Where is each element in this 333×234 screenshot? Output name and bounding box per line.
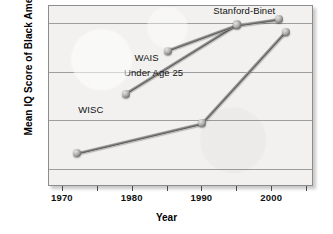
x-tick-mark (167, 186, 168, 191)
x-tick-label-1990: 1990 (181, 192, 221, 203)
series-line-segment (77, 122, 203, 155)
data-point-marker (282, 28, 290, 36)
x-axis-label: Year (0, 212, 333, 223)
annotation-wais: WAIS (134, 52, 158, 63)
x-tick-label-1980: 1980 (112, 192, 152, 203)
data-point-marker (198, 119, 206, 127)
x-tick-mark (271, 186, 272, 191)
x-tick-mark (306, 186, 307, 191)
x-tick-mark (62, 186, 63, 191)
series-line-segment (201, 30, 287, 124)
gridline-88 (49, 23, 312, 24)
gridline-82 (49, 169, 312, 170)
x-tick-mark (132, 186, 133, 191)
data-point-marker (73, 149, 81, 157)
series-line-segment (167, 24, 238, 52)
data-point-marker (122, 90, 130, 98)
plot-area: Stanford-Binet WAIS Under Age 25 WISC (48, 5, 313, 186)
annotation-under-age-25: Under Age 25 (124, 67, 183, 78)
x-tick-label-2000: 2000 (251, 192, 291, 203)
chart-figure: Mean IQ Score of Black Americans 88 86 8… (0, 0, 333, 234)
data-point-marker (164, 47, 172, 55)
gridline-84 (49, 120, 312, 121)
annotation-wisc: WISC (78, 104, 103, 115)
x-tick-mark (97, 186, 98, 191)
x-tick-label-1970: 1970 (42, 192, 82, 203)
x-tick-mark (201, 186, 202, 191)
x-tick-mark (236, 186, 237, 191)
y-axis-label: Mean IQ Score of Black Americans (23, 0, 34, 142)
data-point-marker (233, 21, 241, 29)
annotation-stanford-binet: Stanford-Binet (213, 5, 275, 16)
